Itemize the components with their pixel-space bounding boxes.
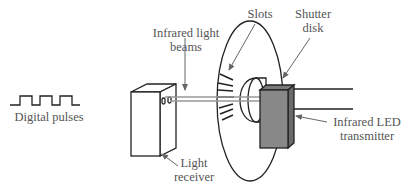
receiver-label-line1: Light	[166, 156, 222, 170]
infrared-led-transmitter	[260, 85, 294, 148]
transmitter-label-line1: Infrared LED	[325, 115, 409, 129]
pulses-label-text: Digital pulses	[4, 110, 94, 124]
beams-label: Infrared light beams	[138, 26, 234, 54]
digital-pulses-label: Digital pulses	[4, 110, 94, 124]
light-receiver-label: Light receiver	[166, 156, 222, 184]
receiver-label-line2: receiver	[166, 170, 222, 184]
shutter-disk-label: Shutter disk	[288, 7, 338, 35]
transmitter-wires	[294, 89, 353, 109]
beams-label-line2: beams	[138, 40, 234, 54]
transmitter-label-line2: transmitter	[325, 129, 409, 143]
digital-pulses-waveform	[10, 96, 80, 105]
shutter-label-line2: disk	[288, 21, 338, 35]
slots-label: Slots	[240, 7, 280, 21]
transmitter-label: Infrared LED transmitter	[325, 115, 409, 143]
shutter-label-line1: Shutter	[288, 7, 338, 21]
beams-label-line1: Infrared light	[138, 26, 234, 40]
slots-label-text: Slots	[240, 7, 280, 21]
light-receiver	[131, 84, 176, 156]
